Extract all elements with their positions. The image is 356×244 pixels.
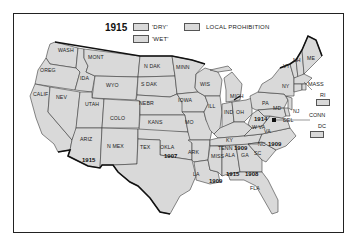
label-iowa: IOWA (178, 97, 192, 103)
label-nc: NC (258, 141, 266, 147)
label-mont: MONT (88, 54, 104, 60)
state-colo (102, 99, 140, 128)
label-la: LA (193, 171, 200, 177)
label-colo: COLO (110, 115, 125, 121)
callout-label-ri: RI (320, 92, 326, 98)
label-ky: KY (226, 137, 234, 143)
year-ga: 1908 (245, 171, 259, 177)
label-wyo: WYO (106, 82, 119, 88)
year-tenn: 1909 (234, 145, 248, 151)
label-okla: OKLA (160, 144, 175, 150)
year-ala: 1915 (226, 171, 240, 177)
label-wash: WASH (58, 47, 74, 53)
year-nc: 1909 (268, 141, 282, 147)
label-s-dak: S DAK (141, 81, 158, 87)
year-ariz: 1915 (82, 157, 96, 163)
label-ala: ALA (225, 152, 236, 158)
label-ark: ARK (188, 149, 199, 155)
label-n-dak: N DAK (144, 63, 161, 69)
callout-box-ri (316, 99, 330, 106)
callout-label-conn: CONN (309, 112, 325, 118)
state-pa (250, 92, 288, 110)
callout-label-dc: DC (318, 123, 326, 129)
state-conn (294, 84, 302, 92)
label-ill: ILL (208, 103, 216, 109)
label-tenn: TENN (218, 145, 233, 151)
label-w-va: W VA (252, 124, 266, 130)
label-ida: IDA (80, 75, 89, 81)
dc-marker (272, 118, 276, 122)
label-sc: SC (254, 150, 262, 156)
label-vt: VT (283, 63, 291, 69)
year-okla: 1907 (164, 153, 178, 159)
label-md: MD (273, 105, 281, 111)
label-oreg: OREG (40, 67, 56, 73)
callout-box-dc (310, 131, 324, 138)
state-fla (228, 172, 278, 214)
label-ny: NY (282, 83, 290, 89)
label-tex: TEX (140, 144, 151, 150)
label-ga: GA (241, 152, 249, 158)
label-nj: NJ (293, 108, 300, 114)
state-wyo (92, 76, 138, 100)
label-nev: NEV (56, 94, 67, 100)
label-minn: MINN (176, 64, 190, 70)
us-map: WASH OREG CALIF IDA NEV MONT WYO UTAH AR… (0, 0, 356, 244)
label-me: ME (307, 55, 315, 61)
label-ariz: ARIZ (80, 136, 92, 142)
callout-label-mass: MASS (308, 81, 324, 87)
label-utah: UTAH (85, 101, 99, 107)
label-n-mex: N MEX (107, 143, 124, 149)
year-miss: 1909 (209, 178, 223, 184)
label-pa: PA (262, 100, 269, 106)
label-nh: NH (293, 57, 301, 63)
label-calif: CALIF (33, 91, 48, 97)
label-nebr: NEBR (139, 100, 154, 106)
label-ind: IND (224, 109, 233, 115)
state-ri (302, 84, 306, 90)
label-mo: MO (185, 119, 194, 125)
label-miss: MISS (211, 153, 225, 159)
label-wis: WIS (200, 81, 211, 87)
label-del: DEL (283, 117, 293, 123)
label-kans: KANS (148, 119, 163, 125)
year-w-va: 1914 (254, 116, 268, 122)
label-fla: FLA (250, 185, 260, 191)
label-mich: MICH (230, 93, 244, 99)
label-oh: OH (236, 109, 244, 115)
